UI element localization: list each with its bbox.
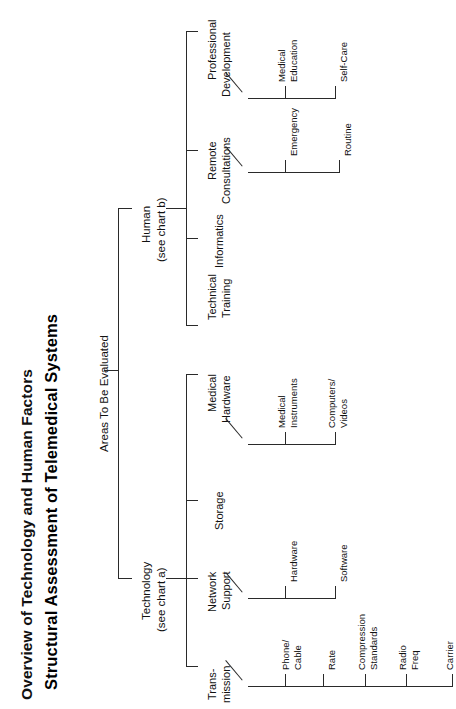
human-stem bbox=[166, 208, 186, 209]
leaf-medical-education-line1: Medical bbox=[277, 49, 288, 82]
connector-transmission bbox=[186, 666, 198, 667]
leaf-radio-freq-line1: Radio bbox=[398, 645, 409, 670]
connector-remote-consultations bbox=[186, 150, 198, 151]
leaf-phone-cable-line2: Cable bbox=[293, 645, 304, 670]
leaf-self-care-line1: Self-Care bbox=[339, 42, 350, 82]
leaf-compression-standards-line2: Standards bbox=[369, 627, 380, 670]
node-technical-training-label-line1: Technical bbox=[206, 274, 218, 320]
leaf-tick-self-care bbox=[335, 86, 336, 98]
leaf-tick-computers-videos bbox=[335, 432, 336, 444]
connector-medical-hardware bbox=[186, 374, 198, 375]
leaf-tick-compression-standards bbox=[365, 674, 366, 686]
leaf-carrier-line1: Carrier bbox=[445, 641, 456, 670]
node-informatics-label: Informatics bbox=[213, 214, 225, 268]
connector-storage bbox=[186, 500, 198, 501]
leaf-software-line1: Software bbox=[339, 545, 350, 583]
leaf-tick-carrier bbox=[452, 674, 453, 686]
node-human-label-line1: Human bbox=[140, 206, 153, 243]
leaf-tick-hardware bbox=[285, 586, 286, 598]
leaf-tick-emergency bbox=[285, 160, 286, 172]
leaf-spine-professional-development bbox=[248, 98, 336, 99]
branch-connector-technology bbox=[118, 578, 132, 579]
node-medical-hardware-label-line2: Hardware bbox=[220, 375, 232, 423]
page-title: Structural Assessment of Telemedical Sys… bbox=[42, 314, 60, 690]
leaf-spine-medical-hardware bbox=[248, 444, 336, 445]
node-medical-hardware-label-line1: Medical bbox=[206, 374, 218, 412]
human-children-spine bbox=[186, 31, 187, 325]
leaf-emergency-line1: Emergency bbox=[289, 108, 300, 156]
leaf-routine-line1: Routine bbox=[343, 123, 354, 156]
node-remote-consultations-label-line1: Remote bbox=[206, 141, 218, 180]
node-transmission-label-line2: mission bbox=[220, 666, 232, 703]
node-root-label: Areas To Be Evaluated bbox=[98, 335, 111, 452]
leaf-tick-software bbox=[335, 586, 336, 598]
connector-informatics bbox=[186, 238, 198, 239]
leaf-tick-rate bbox=[323, 674, 324, 686]
leaf-radio-freq-line2: Freq bbox=[410, 650, 421, 670]
technology-stem bbox=[166, 578, 186, 579]
node-professional-development-label-line2: Development bbox=[220, 32, 232, 97]
trunk-spine bbox=[118, 208, 119, 578]
connector-technical-training bbox=[186, 325, 198, 326]
leaf-phone-cable-line1: Phone/ bbox=[281, 640, 292, 670]
leaf-tick-medical-education bbox=[285, 86, 286, 98]
leaf-tick-phone-cable bbox=[285, 674, 286, 686]
leaf-computers-videos-line2: Videos bbox=[339, 399, 350, 428]
leaf-medical-instruments-line2: Instruments bbox=[289, 378, 300, 428]
clipped-heading: Overview of Technology and Human Factors bbox=[18, 369, 35, 700]
leaf-tick-routine bbox=[339, 160, 340, 172]
technology-children-spine bbox=[186, 374, 187, 666]
node-technical-training-label-line2: Training bbox=[220, 279, 232, 318]
leaf-link-medical-hardware bbox=[225, 418, 242, 439]
leaf-medical-education-line2: Education bbox=[289, 40, 300, 82]
node-storage-label: Storage bbox=[213, 491, 225, 530]
leaf-tick-medical-instruments bbox=[285, 432, 286, 444]
branch-connector-human bbox=[118, 208, 132, 209]
leaf-compression-standards-line1: Compression bbox=[357, 614, 368, 670]
node-transmission-label-line1: Trans- bbox=[206, 669, 218, 700]
leaf-rate-line1: Rate bbox=[327, 650, 338, 670]
node-network-support-label-line1: Network bbox=[206, 572, 218, 612]
connector-network-support bbox=[186, 578, 198, 579]
leaf-medical-instruments-line1: Medical bbox=[277, 395, 288, 428]
leaf-spine-remote-consultations bbox=[248, 172, 340, 173]
leaf-hardware-line1: Hardware bbox=[289, 541, 300, 582]
root-stem bbox=[104, 370, 118, 371]
leaf-spine-network-support bbox=[248, 598, 336, 599]
leaf-spine-transmission bbox=[248, 686, 453, 687]
node-professional-development-label-line1: Professional bbox=[206, 19, 218, 80]
connector-professional-development bbox=[186, 31, 198, 32]
leaf-computers-videos-line1: Computers/ bbox=[327, 379, 338, 428]
node-technology-label-line1: Technology bbox=[140, 562, 153, 620]
leaf-tick-radio-freq bbox=[406, 674, 407, 686]
